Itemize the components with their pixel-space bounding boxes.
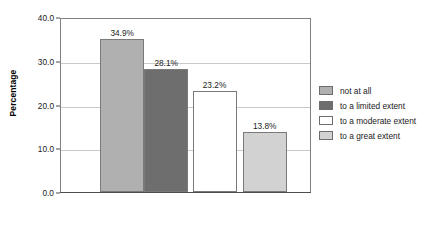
y-axis-tick-label: 40.0 — [24, 13, 54, 23]
legend-item: to a great extent — [319, 129, 431, 143]
legend-label: to a great extent — [340, 131, 400, 141]
legend-swatch — [319, 131, 333, 140]
bar — [100, 39, 144, 192]
legend-swatch — [319, 116, 333, 125]
plot-area: 34.9%28.1%23.2%13.8% — [60, 18, 311, 193]
legend-swatch — [319, 86, 333, 95]
bar-value-label: 28.1% — [154, 58, 178, 68]
y-axis-tick-labels: 0.010.020.030.040.0 — [22, 0, 54, 231]
y-axis-tick-mark — [56, 193, 60, 194]
x-axis-baseline — [60, 192, 311, 193]
bar — [243, 132, 287, 192]
bar-chart: Percentage 0.010.020.030.040.0 34.9%28.1… — [0, 0, 432, 231]
legend-label: not at all — [340, 86, 371, 96]
y-axis-tick-mark — [56, 149, 60, 150]
y-axis-tick-mark — [56, 61, 60, 62]
y-axis-title: Percentage — [8, 58, 18, 128]
legend-item: to a limited extent — [319, 99, 431, 113]
legend-label: to a moderate extent — [340, 116, 416, 126]
y-axis-tick-label: 10.0 — [24, 144, 54, 154]
bar-value-label: 34.9% — [110, 28, 134, 38]
y-axis-tick-mark — [56, 105, 60, 106]
bar — [144, 69, 188, 192]
y-axis-tick-label: 20.0 — [24, 101, 54, 111]
y-axis-tick-mark — [56, 18, 60, 19]
legend-label: to a limited extent — [340, 101, 405, 111]
legend-swatch — [319, 101, 333, 110]
bar-value-label: 13.8% — [253, 121, 277, 131]
bar-value-label: 23.2% — [203, 80, 227, 90]
legend: not at allto a limited extentto a modera… — [319, 84, 431, 144]
bar — [193, 91, 237, 193]
y-axis-tick-label: 30.0 — [24, 57, 54, 67]
legend-item: not at all — [319, 84, 431, 98]
gridline — [61, 63, 310, 64]
y-axis-tick-label: 0.0 — [24, 188, 54, 198]
legend-item: to a moderate extent — [319, 114, 431, 128]
